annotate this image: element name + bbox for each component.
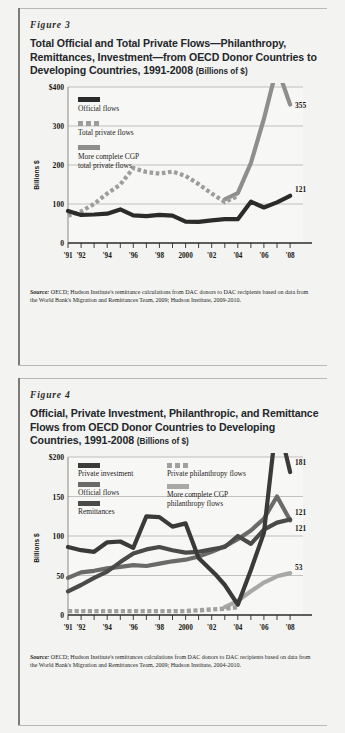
legend-label-remittances: Remittances bbox=[78, 507, 115, 516]
figure-4-label: Figure 4 bbox=[18, 378, 327, 400]
x-tick-label-1996: '96 bbox=[129, 252, 139, 260]
legend-label-cgp-total-private-line2: total private flows bbox=[78, 161, 132, 170]
y-tick-label-0: 0 bbox=[60, 611, 64, 620]
data-label-53: 53 bbox=[295, 563, 303, 572]
y-tick-label-400: $400 bbox=[49, 83, 64, 92]
legend-swatch-cgp-total-private bbox=[78, 145, 100, 150]
x-tick-label-1994: '94 bbox=[103, 252, 113, 260]
legend-label-cgp-total-private-line1: More complete CGP bbox=[78, 152, 139, 161]
x-tick-label-1991: '91 bbox=[63, 624, 73, 632]
x-tick-label-1998: '98 bbox=[155, 252, 165, 260]
legend-label-official-flows: Official flows bbox=[78, 104, 119, 113]
figure-4-source-prefix: Source: bbox=[30, 654, 49, 660]
figure-3-bottom-rule bbox=[18, 365, 327, 366]
figure-4-bottom-rule bbox=[18, 725, 327, 726]
figure-3-top-rule bbox=[18, 8, 327, 9]
legend-label-total-private-flows: Total private flows bbox=[78, 128, 134, 137]
y-axis-title: Billions $ bbox=[33, 533, 41, 563]
x-tick-label-1998: '98 bbox=[155, 624, 165, 632]
y-tick-label-0: 0 bbox=[60, 239, 64, 248]
x-tick-label-2006: '06 bbox=[259, 252, 269, 260]
y-tick-label-100: 100 bbox=[53, 532, 65, 541]
legend-swatch-official-flows bbox=[78, 97, 100, 102]
figure-3-label: Figure 3 bbox=[18, 8, 327, 30]
legend-label-cgp-philanthropy-line2: philanthropy flows bbox=[167, 499, 223, 508]
figure-3-source: Source: OECD; Hudson Institute's remitta… bbox=[18, 283, 327, 304]
figure-3-left-rule bbox=[18, 8, 20, 366]
figure-3-svg: $400 300 200 100 0 Billions $ '91 '92 '9… bbox=[30, 83, 320, 283]
legend-swatch-private-investment bbox=[78, 463, 100, 468]
data-label-121: 121 bbox=[295, 185, 306, 194]
legend-label-private-philanthropy: Private philanthropy flows bbox=[167, 469, 246, 478]
legend-swatch-private-philanthropy bbox=[167, 463, 188, 468]
figure-4-block: Figure 4 Official, Private Investment, P… bbox=[18, 378, 327, 726]
x-tick-label-2006: '06 bbox=[259, 624, 269, 632]
data-label-121-official: 121 bbox=[295, 508, 306, 517]
x-tick-label-1991: '91 bbox=[63, 252, 73, 260]
figure-3-chart: $400 300 200 100 0 Billions $ '91 '92 '9… bbox=[30, 83, 327, 283]
x-tick-label-2000: 2000 bbox=[178, 624, 193, 632]
figure-4-source-text: OECD; Hudson Institute's remittances cal… bbox=[30, 654, 311, 668]
y-tick-label-150: 150 bbox=[53, 492, 65, 501]
figure-3-title: Total Official and Total Private Flows—P… bbox=[18, 30, 327, 79]
figure-3-source-text: OECD; Hudson Institute's remittance calc… bbox=[30, 289, 308, 303]
figure-3-block: Figure 3 Total Official and Total Privat… bbox=[18, 8, 327, 366]
legend-swatch-remittances bbox=[78, 501, 100, 506]
x-tick-label-2002: '02 bbox=[207, 624, 217, 632]
y-tick-label-300: 300 bbox=[53, 122, 65, 131]
x-ticks bbox=[68, 615, 290, 620]
x-tick-label-2008: '08 bbox=[286, 252, 296, 260]
figure-4-source: Source: OECD; Hudson Institute's remitta… bbox=[18, 648, 327, 669]
figure-3-source-prefix: Source: bbox=[30, 289, 49, 295]
legend-label-official-flows: Official flows bbox=[78, 488, 119, 497]
x-tick-label-1992: '92 bbox=[77, 252, 87, 260]
x-tick-label-2008: '08 bbox=[286, 624, 296, 632]
figure-4-title: Official, Private Investment, Philanthro… bbox=[18, 400, 327, 449]
x-ticks bbox=[68, 243, 290, 248]
legend-label-private-investment: Private investment bbox=[78, 469, 134, 478]
data-label-355: 355 bbox=[295, 101, 306, 110]
y-tick-label-50: 50 bbox=[56, 571, 64, 580]
data-label-181: 181 bbox=[295, 458, 306, 467]
legend-swatch-cgp-philanthropy bbox=[167, 484, 189, 489]
legend-label-cgp-philanthropy-line1: More complete CGP bbox=[167, 490, 228, 499]
figure-4-left-rule bbox=[18, 378, 20, 726]
document-page: Figure 3 Total Official and Total Privat… bbox=[0, 0, 345, 733]
x-tick-label-1992: '92 bbox=[77, 624, 87, 632]
data-label-121-remittances: 121 bbox=[295, 524, 306, 533]
y-tick-label-200: 200 bbox=[53, 161, 65, 170]
figure-4-chart: $200 150 100 50 0 Billions $ '91 '92 '94… bbox=[30, 453, 327, 648]
figure-3-title-text: Total Official and Total Private Flows—P… bbox=[30, 37, 317, 76]
figure-4-svg: $200 150 100 50 0 Billions $ '91 '92 '94… bbox=[30, 453, 320, 648]
x-tick-label-1994: '94 bbox=[103, 624, 113, 632]
figure-3-title-units: (Billions of $) bbox=[196, 67, 248, 76]
legend-swatch-official-flows bbox=[78, 482, 100, 487]
y-axis-title: Billions $ bbox=[33, 160, 41, 190]
y-tick-label-200: $200 bbox=[49, 453, 64, 462]
legend-swatch-total-private-flows bbox=[78, 121, 99, 126]
x-tick-label-1996: '96 bbox=[129, 624, 139, 632]
x-tick-label-2000: 2000 bbox=[178, 252, 193, 260]
figure-4-top-rule bbox=[18, 378, 327, 379]
x-tick-label-2004: '04 bbox=[233, 252, 243, 260]
x-tick-label-2004: '04 bbox=[233, 624, 243, 632]
x-tick-label-2002: '02 bbox=[207, 252, 217, 260]
y-tick-label-100: 100 bbox=[53, 200, 65, 209]
figure-4-title-units: (Billions of $) bbox=[137, 437, 189, 446]
